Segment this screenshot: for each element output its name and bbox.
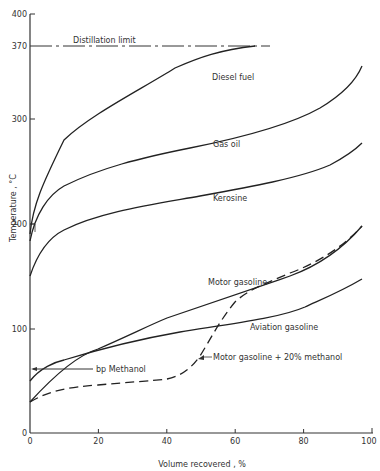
y-ticks (30, 14, 35, 329)
motor-methanol-label: Motor gasoline + 20% methanol (213, 353, 342, 362)
distillation-limit-label: Distillation limit (73, 36, 136, 45)
y-tick-400: 400 (12, 10, 27, 19)
x-tick-0: 0 (27, 437, 32, 446)
x-axis-label: Volume recovered , % (158, 460, 246, 469)
x-tick-100: 100 (361, 437, 376, 446)
aviation-gasoline-label: Aviation gasoline (250, 323, 318, 332)
motor-gasoline-methanol-curve (30, 226, 362, 402)
y-tick-300: 300 (12, 115, 27, 124)
x-ticks (98, 428, 372, 433)
y-axis-label: Temperature , °C (9, 174, 18, 243)
kerosine-curve (30, 143, 362, 276)
y-tick-100: 100 (12, 325, 27, 334)
gas-oil-label: Gas oil (213, 140, 240, 149)
x-tick-40: 40 (162, 437, 172, 446)
bp-methanol-label: bp Methanol (96, 365, 146, 374)
x-tick-20: 20 (93, 437, 103, 446)
gas-oil-curve (30, 66, 362, 241)
x-tick-60: 60 (230, 437, 240, 446)
kerosine-label: Kerosine (213, 194, 247, 203)
motor-gasoline-label: Motor gasoline (208, 278, 267, 287)
y-tick-0: 0 (22, 429, 27, 438)
x-tick-80: 80 (299, 437, 309, 446)
distillation-chart: 400 370 300 200 100 0 0 20 40 60 80 100 … (0, 0, 380, 471)
y-tick-370: 370 (12, 42, 27, 51)
motor-methanol-arrowhead-icon (198, 355, 204, 360)
bp-methanol-arrowhead-icon (31, 367, 37, 371)
motor-gasoline-curve (30, 226, 362, 402)
diesel-fuel-label: Diesel fuel (212, 73, 254, 82)
